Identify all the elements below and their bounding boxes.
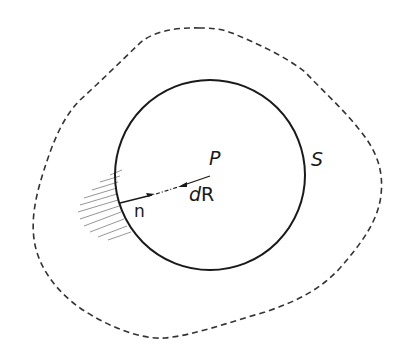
dR-label-d: d [189,183,201,205]
normal-label: n [134,203,145,220]
dR-label-R: R [201,183,214,205]
arrowhead-icon [178,182,187,187]
diagram-canvas [0,0,400,351]
dR-label: dR [189,185,214,204]
point-label: P [209,149,220,168]
surface-circle [115,80,305,270]
hatched-region [78,170,131,240]
surface-label: S [311,150,323,169]
dash-dot-line [156,187,178,194]
